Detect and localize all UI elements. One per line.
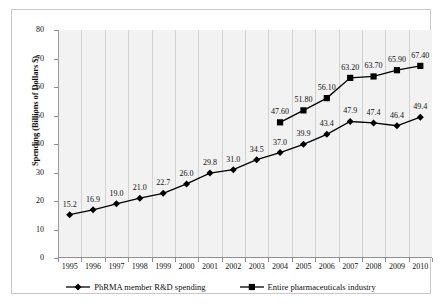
data-point-label: 49.4: [413, 102, 427, 111]
data-point-label: 31.0: [226, 155, 240, 164]
plot-area-wrapper: 15.216.919.021.022.726.029.831.034.537.0…: [58, 30, 432, 258]
data-point-diamond: [417, 114, 424, 121]
data-point-diamond: [90, 206, 97, 213]
data-point-square: [370, 73, 376, 79]
data-point-label: 29.8: [203, 158, 217, 167]
y-axis-tick-label: 40: [22, 139, 44, 148]
data-point-label: 67.40: [411, 51, 429, 60]
data-point-label: 22.7: [156, 178, 170, 187]
legend-item[interactable]: PhRMA member R&D spending: [66, 282, 205, 292]
data-point-square: [300, 107, 306, 113]
data-point-label: 16.9: [86, 195, 100, 204]
data-point-label: 19.0: [109, 189, 123, 198]
y-axis-tick-label: 60: [22, 82, 44, 91]
data-point-label: 46.4: [390, 111, 404, 120]
data-point-diamond: [393, 122, 400, 129]
legend-label: Entire pharmaceuticals industry: [268, 282, 376, 292]
y-axis-tick-label: 30: [22, 168, 44, 177]
data-point-label: 63.20: [341, 63, 359, 72]
data-point-label: 26.0: [180, 169, 194, 178]
data-point-label: 65.90: [388, 55, 406, 64]
y-axis-tick-label: 50: [22, 111, 44, 120]
legend-label: PhRMA member R&D spending: [94, 282, 205, 292]
y-axis-tick-label: 80: [22, 25, 44, 34]
data-point-square: [277, 119, 283, 125]
legend-item[interactable]: Entire pharmaceuticals industry: [240, 282, 376, 292]
data-point-label: 47.9: [343, 106, 357, 115]
data-point-diamond: [160, 190, 167, 197]
data-point-label: 15.2: [63, 200, 77, 209]
chart-legend: PhRMA member R&D spendingEntire pharmace…: [12, 282, 430, 292]
data-point-square: [324, 95, 330, 101]
data-point-diamond: [347, 118, 354, 125]
data-point-diamond: [277, 149, 284, 156]
data-point-diamond: [66, 211, 73, 218]
data-point-square: [417, 63, 423, 69]
data-point-square: [347, 75, 353, 81]
chart-figure: Spending (Billions of Dollars $) 0102030…: [0, 0, 442, 306]
data-point-diamond: [113, 200, 120, 207]
legend-square-icon: [240, 282, 264, 292]
data-point-diamond: [323, 131, 330, 138]
data-point-diamond: [253, 156, 260, 163]
data-point-diamond: [206, 170, 213, 177]
data-point-label: 56.10: [318, 83, 336, 92]
y-axis-tick-label: 20: [22, 196, 44, 205]
data-point-diamond: [370, 119, 377, 126]
data-point-label: 34.5: [250, 145, 264, 154]
x-axis-tick-label: 2010: [400, 262, 440, 271]
y-axis-tick-label: 0: [22, 253, 44, 262]
plot-area: 15.216.919.021.022.726.029.831.034.537.0…: [58, 30, 432, 258]
data-point-label: 21.0: [133, 183, 147, 192]
data-point-label: 51.80: [294, 95, 312, 104]
y-axis-tick-label: 70: [22, 54, 44, 63]
data-point-label: 43.4: [320, 119, 334, 128]
series-line: [70, 117, 421, 214]
data-point-label: 39.9: [296, 129, 310, 138]
data-point-diamond: [136, 195, 143, 202]
data-point-diamond: [230, 166, 237, 173]
chart-frame: Spending (Billions of Dollars $) 0102030…: [11, 9, 431, 294]
data-point-label: 63.70: [365, 61, 383, 70]
data-point-diamond: [300, 141, 307, 148]
data-point-diamond: [183, 180, 190, 187]
data-point-square: [394, 67, 400, 73]
data-point-label: 37.0: [273, 138, 287, 147]
data-point-label: 47.60: [271, 107, 289, 116]
legend-diamond-icon: [66, 282, 90, 292]
y-axis-tick-label: 10: [22, 225, 44, 234]
data-point-label: 47.4: [367, 108, 381, 117]
